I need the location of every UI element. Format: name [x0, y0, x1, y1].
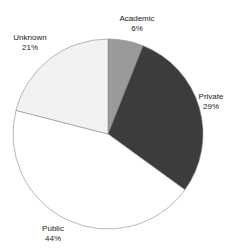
slice-label-public: Public 44%: [42, 224, 64, 244]
slice-label-private-value: 29%: [199, 102, 224, 112]
slice-label-public-name: Public: [42, 224, 64, 234]
slice-label-unknown-name: Unknown: [13, 33, 46, 43]
slice-label-academic: Academic 6%: [119, 14, 154, 34]
slice-label-academic-name: Academic: [119, 14, 154, 24]
slice-label-private-name: Private: [199, 92, 224, 102]
slice-label-unknown-value: 21%: [13, 43, 46, 53]
slice-label-unknown: Unknown 21%: [13, 33, 46, 53]
slice-label-academic-value: 6%: [119, 24, 154, 34]
slice-label-public-value: 44%: [42, 234, 64, 244]
slice-label-private: Private 29%: [199, 92, 224, 112]
